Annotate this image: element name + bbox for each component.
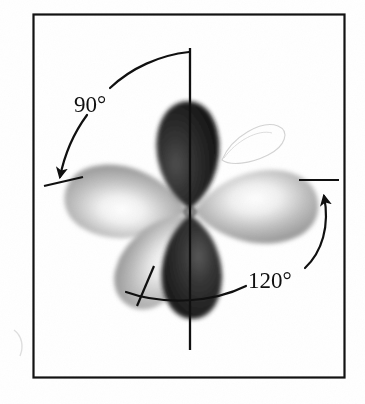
orbital-diagram: 90° 120° <box>0 0 365 404</box>
figure-container: 90° 120° <box>0 0 365 404</box>
paper-grain <box>0 0 365 404</box>
